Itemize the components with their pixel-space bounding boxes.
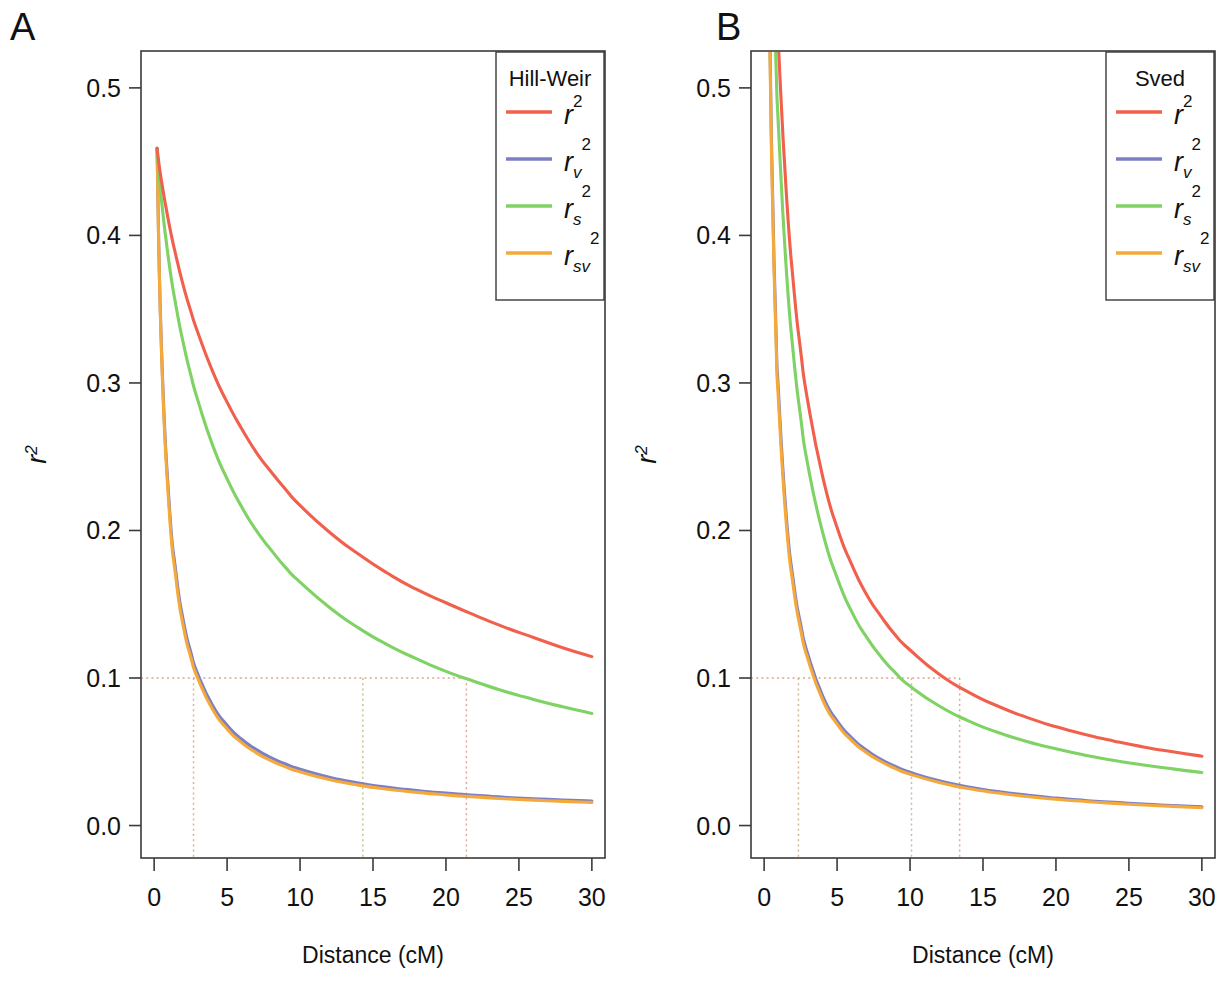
x-tick-label: 30 [578,883,606,911]
y-axis-title: r2 [632,445,662,464]
legend-title: Hill-Weir [509,66,592,91]
reference-lines [751,678,960,858]
x-axis-title: Distance (cM) [302,942,444,968]
x-axis: 051015202530 [147,858,606,911]
x-tick-label: 25 [1115,883,1143,911]
y-tick-label: 0.5 [86,74,121,102]
reference-lines [141,678,466,858]
y-tick-label: 0.5 [696,74,731,102]
x-tick-label: 20 [432,883,460,911]
y-axis: 0.00.10.20.30.40.5 [696,74,751,840]
x-tick-label: 0 [757,883,771,911]
x-tick-label: 0 [147,883,161,911]
y-tick-label: 0.3 [86,369,121,397]
x-tick-label: 10 [286,883,314,911]
x-tick-label: 5 [220,883,234,911]
panel-b-plot: 0.00.10.20.30.40.5051015202530Distance (… [610,0,1220,985]
x-tick-label: 30 [1188,883,1216,911]
x-axis: 051015202530 [757,858,1216,911]
y-tick-label: 0.1 [86,664,121,692]
x-tick-label: 15 [359,883,387,911]
y-tick-label: 0.3 [696,369,731,397]
panel-a: A 0.00.10.20.30.40.5051015202530Distance… [0,0,610,985]
y-tick-label: 0.2 [696,516,731,544]
x-tick-label: 15 [969,883,997,911]
legend-title: Sved [1135,66,1185,91]
x-tick-label: 5 [830,883,844,911]
legend: Svedr2rv2rs2rsv2 [1106,52,1214,300]
ld-decay-figure: A 0.00.10.20.30.40.5051015202530Distance… [0,0,1220,985]
x-axis-title: Distance (cM) [912,942,1054,968]
y-tick-label: 0.4 [696,221,731,249]
y-tick-label: 0.4 [86,221,121,249]
y-tick-label: 0.1 [696,664,731,692]
y-tick-label: 0.0 [86,812,121,840]
panel-a-plot: 0.00.10.20.30.40.5051015202530Distance (… [0,0,610,985]
x-tick-label: 25 [505,883,533,911]
x-tick-label: 20 [1042,883,1070,911]
x-tick-label: 10 [896,883,924,911]
panel-b: B 0.00.10.20.30.40.5051015202530Distance… [610,0,1220,985]
y-axis-title: r2 [22,445,52,464]
y-tick-label: 0.0 [696,812,731,840]
y-axis: 0.00.10.20.30.40.5 [86,74,141,840]
legend: Hill-Weirr2rv2rs2rsv2 [496,52,604,300]
y-tick-label: 0.2 [86,516,121,544]
